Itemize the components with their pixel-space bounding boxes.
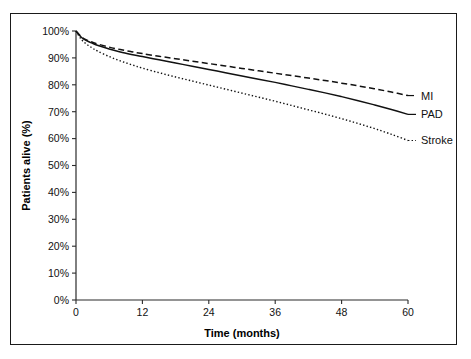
x-axis-tick-labels: 01224364860 (73, 306, 414, 318)
y-tick-label: 90% (48, 52, 69, 64)
y-tick-label: 40% (48, 186, 69, 198)
x-tick-label: 60 (402, 306, 414, 318)
data-series-curves (76, 31, 408, 140)
x-tick-label: 0 (73, 306, 79, 318)
y-tick-label: 50% (48, 159, 69, 171)
y-tick-label: 70% (48, 106, 69, 118)
y-tick-label: 60% (48, 132, 69, 144)
series-label-pad: PAD (421, 108, 443, 120)
y-tick-label: 80% (48, 79, 69, 91)
x-axis-title: Time (months) (204, 327, 280, 339)
x-tick-label: 36 (269, 306, 281, 318)
y-axis-title: Patients alive (%) (20, 120, 32, 211)
series-line-mi (76, 31, 408, 96)
series-line-pad (76, 31, 408, 114)
y-tick-label: 30% (48, 213, 69, 225)
series-label-stroke: Stroke (421, 134, 453, 146)
survival-curve-chart: 0%10%20%30%40%50%60%70%80%90%100% 012243… (0, 0, 471, 359)
y-tick-label: 10% (48, 267, 69, 279)
series-line-stroke (76, 31, 408, 140)
y-tick-label: 100% (42, 25, 69, 37)
y-axis-tick-labels: 0%10%20%30%40%50%60%70%80%90%100% (42, 25, 69, 306)
x-tick-label: 24 (203, 306, 215, 318)
y-tick-label: 20% (48, 240, 69, 252)
series-label-mi: MI (421, 90, 433, 102)
x-tick-label: 48 (336, 306, 348, 318)
series-inline-labels: MIPADStroke (408, 90, 453, 147)
y-tick-label: 0% (54, 294, 69, 306)
x-tick-label: 12 (137, 306, 149, 318)
figure-root: 0%10%20%30%40%50%60%70%80%90%100% 012243… (0, 0, 471, 359)
